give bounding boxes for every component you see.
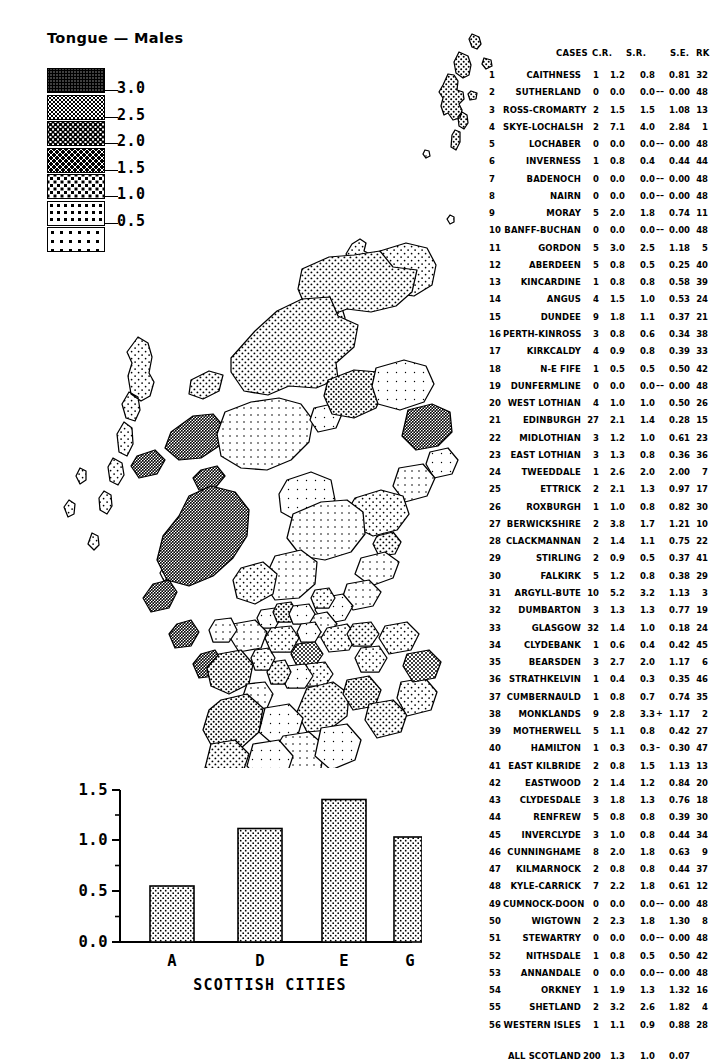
table-header-row: CASES C.R. S.R. S.E. RK [489,48,704,70]
row-cases: 1 [583,70,599,80]
row-number: 34 [489,640,503,650]
row-crude-rate: 0.8 [605,277,625,287]
total-cases: 200 [583,1051,599,1061]
row-rank: 18 [694,795,708,805]
table-row: 9MORAY52.01.80.7411 [489,208,704,225]
row-number: 10 [489,225,503,235]
row-standard-error: 0.39 [668,812,690,822]
row-cases: 5 [583,243,599,253]
row-crude-rate: 0.0 [605,225,625,235]
row-district-name: BANFF-BUCHAN [503,225,581,235]
row-significance-marker: + [656,709,668,718]
row-crude-rate: 0.4 [605,674,625,684]
row-crude-rate: 1.0 [605,830,625,840]
table-row: 16PERTH-KINROSS30.80.60.3438 [489,329,704,346]
total-sr: 1.0 [635,1051,655,1061]
row-standardised-rate: 0.5 [635,553,655,563]
row-cases: 1 [583,364,599,374]
row-standardised-rate: 0.8 [635,346,655,356]
region-skye-lochalsh [131,414,225,490]
row-standardised-rate: 0.0 [635,225,655,235]
row-number: 25 [489,484,503,494]
row-district-name: SHETLAND [503,1002,581,1012]
row-cases: 3 [583,433,599,443]
row-standardised-rate: 0.0 [635,933,655,943]
row-rank: 46 [694,674,708,684]
row-cases: 0 [583,381,599,391]
row-standardised-rate: 1.3 [635,985,655,995]
table-row: 50WIGTOWN22.31.81.308 [489,916,704,933]
row-cases: 1 [583,692,599,702]
row-crude-rate: 0.0 [605,933,625,943]
region-edinburgh [347,622,379,646]
row-rank: 34 [694,830,708,840]
row-rank: 36 [694,450,708,460]
table-row: 22MIDLOTHIAN31.21.00.6123 [489,433,704,450]
column-header-cr: C.R. [592,48,612,58]
row-district-name: STRATHKELVIN [503,674,581,684]
row-cases: 4 [583,398,599,408]
row-rank: 19 [694,605,708,615]
row-significance-marker: –– [656,87,668,96]
row-crude-rate: 1.3 [605,605,625,615]
row-rank: 4 [694,1002,708,1012]
row-cases: 0 [583,968,599,978]
row-district-name: ROXBURGH [503,502,581,512]
row-crude-rate: 1.8 [605,312,625,322]
row-number: 1 [489,70,503,80]
row-crude-rate: 0.9 [605,553,625,563]
row-cases: 0 [583,225,599,235]
row-standard-error: 0.34 [668,329,690,339]
row-standard-error: 0.38 [668,571,690,581]
row-number: 18 [489,364,503,374]
row-number: 43 [489,795,503,805]
row-number: 45 [489,830,503,840]
x-tick-label: A [167,952,177,970]
bar-A [150,886,194,942]
row-standard-error: 1.32 [668,985,690,995]
region-gordon [402,404,452,450]
row-rank: 21 [694,312,708,322]
row-number: 4 [489,122,503,132]
row-cases: 1 [583,985,599,995]
row-cases: 2 [583,553,599,563]
row-standard-error: 0.53 [668,294,690,304]
row-number: 14 [489,294,503,304]
row-number: 38 [489,709,503,719]
row-cases: 5 [583,812,599,822]
row-standard-error: 1.17 [668,709,690,719]
row-standard-error: 1.82 [668,1002,690,1012]
row-rank: 22 [694,536,708,546]
row-crude-rate: 0.6 [605,640,625,650]
table-row: 2SUTHERLAND00.00.0––0.0048 [489,87,704,104]
row-cases: 2 [583,536,599,546]
row-cases: 0 [583,933,599,943]
row-crude-rate: 3.2 [605,1002,625,1012]
row-rank: 37 [694,864,708,874]
table-row: 54ORKNEY11.91.31.3216 [489,985,704,1002]
row-number: 44 [489,812,503,822]
row-crude-rate: 1.2 [605,433,625,443]
row-crude-rate: 5.2 [605,588,625,598]
table-row: 32DUMBARTON31.31.30.7719 [489,605,704,622]
table-row: 40HAMILTON10.30.3–0.3047 [489,743,704,760]
x-tick-label: E [339,952,348,970]
row-crude-rate: 1.3 [605,450,625,460]
row-number: 23 [489,450,503,460]
row-rank: 10 [694,519,708,529]
row-standardised-rate: 0.5 [635,260,655,270]
table-row: 48KYLE-CARRICK72.21.80.6112 [489,881,704,898]
bar-E [322,800,366,943]
row-crude-rate: 1.5 [605,294,625,304]
row-standardised-rate: 0.3 [635,674,655,684]
row-cases: 4 [583,294,599,304]
row-district-name: ABERDEEN [503,260,581,270]
row-standard-error: 0.61 [668,433,690,443]
row-cases: 27 [583,415,599,425]
table-row: 14ANGUS41.51.00.5324 [489,294,704,311]
table-row: 17KIRKCALDY40.90.80.3933 [489,346,704,363]
row-district-name: INVERNESS [503,156,581,166]
table-row: 24TWEEDDALE12.62.02.007 [489,467,704,484]
row-district-name: GLASGOW [503,623,581,633]
row-district-name: STIRLING [503,553,581,563]
